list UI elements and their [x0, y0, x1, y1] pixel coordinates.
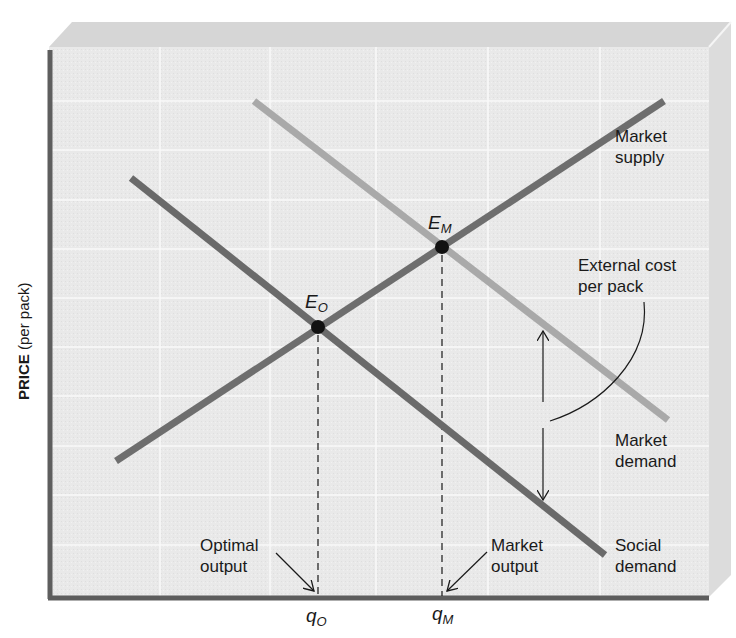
social-demand-label: Social [615, 536, 661, 555]
market-demand-label-2: demand [615, 452, 676, 471]
market-equilibrium-point [435, 240, 449, 254]
market-demand-label: Market [615, 431, 667, 450]
externality-diagram: PRICE (per pack) EO EM Market supply Ext… [0, 0, 736, 638]
market-output-label: Market [491, 536, 543, 555]
optimal-output-label-2: output [200, 557, 248, 576]
y-axis-label: PRICE (per pack) [15, 282, 32, 400]
external-cost-label-2: per pack [578, 277, 644, 296]
q-optimal-label: qO [306, 605, 327, 629]
social-demand-label-2: demand [615, 557, 676, 576]
optimal-output-label: Optimal [200, 536, 259, 555]
plot-area [49, 47, 709, 597]
market-supply-label: Market [615, 127, 667, 146]
market-supply-label-2: supply [615, 148, 665, 167]
box-top-face [49, 22, 731, 47]
box-side-face [709, 22, 731, 597]
external-cost-label: External cost [578, 256, 677, 275]
q-market-label: qM [432, 603, 454, 627]
market-output-label-2: output [491, 557, 539, 576]
optimal-equilibrium-point [311, 320, 325, 334]
